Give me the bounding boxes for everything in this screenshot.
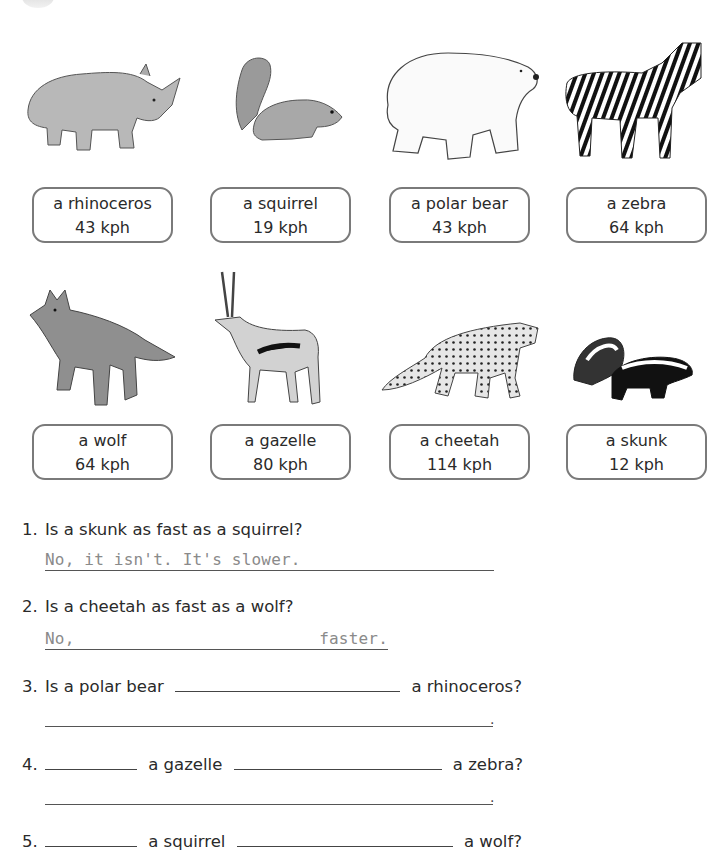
answer-line-2[interactable]: No, faster. — [45, 627, 388, 650]
animal-speed: 64 kph — [568, 216, 705, 240]
gazelle-illustration — [210, 272, 325, 412]
animal-speed: 114 kph — [391, 453, 528, 477]
polar-bear-illustration — [378, 45, 543, 165]
question-1: 1. Is a skunk as fast as a squirrel? — [22, 520, 302, 539]
question-text-start: Is a polar bear — [45, 677, 164, 696]
animal-name: a gazelle — [212, 429, 349, 453]
answer-end: faster. — [319, 629, 388, 648]
animal-speed: 80 kph — [212, 453, 349, 477]
animal-label-cheetah: a cheetah 114 kph — [389, 424, 530, 480]
question-text-end: a rhinoceros? — [411, 677, 522, 696]
question-text-mid: a gazelle — [148, 755, 222, 774]
animal-label-wolf: a wolf 64 kph — [32, 424, 173, 480]
blank-comparison[interactable] — [234, 768, 442, 770]
animal-speed: 43 kph — [391, 216, 528, 240]
wolf-illustration — [25, 285, 180, 415]
page-corner-badge — [22, 0, 54, 8]
question-text: Is a skunk as fast as a squirrel? — [45, 520, 302, 539]
animal-speed: 19 kph — [212, 216, 349, 240]
answer-period: . — [490, 789, 494, 805]
animal-label-skunk: a skunk 12 kph — [566, 424, 707, 480]
animal-speed: 43 kph — [34, 216, 171, 240]
blank-comparison[interactable] — [175, 690, 400, 692]
question-5: 5. a squirrel a wolf? — [22, 832, 522, 851]
question-number: 2. — [22, 597, 38, 616]
animal-label-polar-bear: a polar bear 43 kph — [389, 187, 530, 243]
answer-period: . — [490, 711, 494, 727]
answer-line-1[interactable]: No, it isn't. It's slower. — [45, 548, 494, 571]
blank-verb[interactable] — [45, 845, 137, 847]
zebra-illustration — [562, 38, 701, 168]
answer-text: No, it isn't. It's slower. — [45, 550, 301, 569]
animal-speed: 12 kph — [568, 453, 705, 477]
question-number: 5. — [22, 832, 38, 851]
blank-verb[interactable] — [45, 768, 137, 770]
animal-name: a skunk — [568, 429, 705, 453]
animal-label-gazelle: a gazelle 80 kph — [210, 424, 351, 480]
cheetah-illustration — [380, 318, 540, 403]
question-number: 4. — [22, 755, 38, 774]
question-text-end: a wolf? — [464, 832, 522, 851]
squirrel-illustration — [232, 55, 347, 155]
blank-comparison[interactable] — [237, 845, 453, 847]
animal-name: a rhinoceros — [34, 192, 171, 216]
animal-name: a wolf — [34, 429, 171, 453]
animal-label-squirrel: a squirrel 19 kph — [210, 187, 351, 243]
question-number: 1. — [22, 520, 38, 539]
question-text-mid: a squirrel — [148, 832, 225, 851]
animal-speed: 64 kph — [34, 453, 171, 477]
skunk-illustration — [572, 330, 697, 405]
question-text-end: a zebra? — [453, 755, 523, 774]
animal-label-zebra: a zebra 64 kph — [566, 187, 707, 243]
question-number: 3. — [22, 677, 38, 696]
animal-name: a zebra — [568, 192, 705, 216]
question-2: 2. Is a cheetah as fast as a wolf? — [22, 597, 293, 616]
animal-label-rhinoceros: a rhinoceros 43 kph — [32, 187, 173, 243]
question-3: 3. Is a polar bear a rhinoceros? — [22, 677, 522, 696]
answer-line-4[interactable] — [45, 784, 493, 805]
rhinoceros-illustration — [22, 60, 182, 160]
answer-start: No, — [45, 629, 75, 648]
question-4: 4. a gazelle a zebra? — [22, 755, 523, 774]
question-text: Is a cheetah as fast as a wolf? — [45, 597, 293, 616]
animal-name: a squirrel — [212, 192, 349, 216]
animal-name: a polar bear — [391, 192, 528, 216]
answer-line-3[interactable] — [45, 706, 493, 727]
animal-name: a cheetah — [391, 429, 528, 453]
